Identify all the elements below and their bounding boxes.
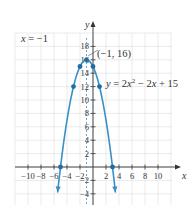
y-tick-label: 8 [85, 108, 89, 118]
x-tick-label: −8 [36, 171, 45, 181]
parabola-chart: −10−8−6−4−2246810−4−224681012141618 x y … [0, 0, 195, 216]
y-axis-label: y [84, 19, 90, 30]
y-tick-label: 18 [81, 41, 90, 51]
data-point [91, 64, 96, 69]
data-point [84, 57, 89, 62]
equation-label: y = 2x2 − 2x + 15 [105, 77, 178, 89]
x-tick-label: 2 [104, 171, 108, 181]
x-tick-label: 10 [154, 171, 163, 181]
data-point [110, 165, 115, 170]
data-point [71, 84, 76, 89]
data-point [58, 165, 63, 170]
axis-of-symmetry-label: x = −1 [20, 33, 48, 44]
x-tick-label: 4 [117, 171, 122, 181]
vertex-label: (−1, 16) [97, 48, 131, 60]
x-tick-label: 8 [143, 171, 147, 181]
x-tick-label: 6 [130, 171, 134, 181]
y-tick-label: 10 [81, 95, 90, 105]
data-point [78, 64, 83, 69]
y-tick-label: −4 [80, 189, 90, 199]
y-tick-label: 12 [81, 82, 90, 92]
x-tick-label: −4 [62, 171, 72, 181]
x-tick-label: −10 [21, 171, 34, 181]
data-point [97, 84, 102, 89]
x-tick-label: −6 [49, 171, 58, 181]
y-tick-label: 14 [81, 68, 90, 78]
x-axis-label: x [181, 170, 187, 181]
y-tick-label: −2 [80, 175, 89, 185]
